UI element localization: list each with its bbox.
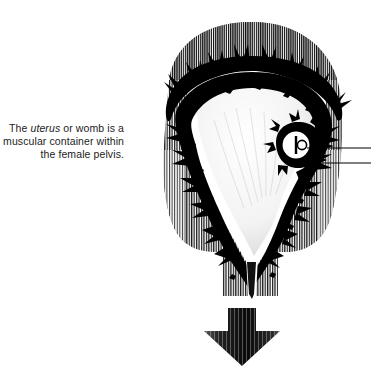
uterus-illustration: [0, 0, 371, 370]
figure-root: The uterus or womb is a muscular contain…: [0, 0, 371, 370]
flow-arrow: [200, 304, 286, 370]
